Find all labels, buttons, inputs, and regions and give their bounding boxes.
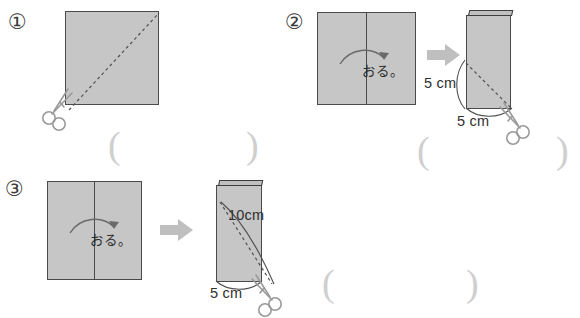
scissors-icon-3 [250,272,292,318]
answer-paren-open-1: ( [108,126,121,164]
answer-paren-open-3: ( [322,264,335,302]
measure-label-bottom-3: 5 cm [210,285,242,301]
problem-number-2: ② [285,12,304,33]
measure-label-bottom-2: 5 cm [457,113,489,129]
answer-paren-close-2: ) [556,131,569,169]
scissors-icon [38,86,80,132]
fold-crease-3 [217,185,262,186]
fold-label-3: おる。 [90,229,132,249]
measure-label-left-2: 5 cm [424,75,456,91]
scissors-icon-2 [498,100,540,146]
answer-paren-close-1: ) [246,126,259,164]
answer-paren-close-3: ) [466,264,479,302]
problem-number-3: ③ [5,179,24,200]
answer-paren-open-2: ( [417,131,430,169]
fold-crease-2 [467,15,511,16]
problem-number-1: ① [8,12,27,33]
fold-label-2: おる。 [362,60,404,80]
arrow-right-icon-3 [160,219,194,241]
measure-label-diagonal-3: 10cm [228,207,264,223]
